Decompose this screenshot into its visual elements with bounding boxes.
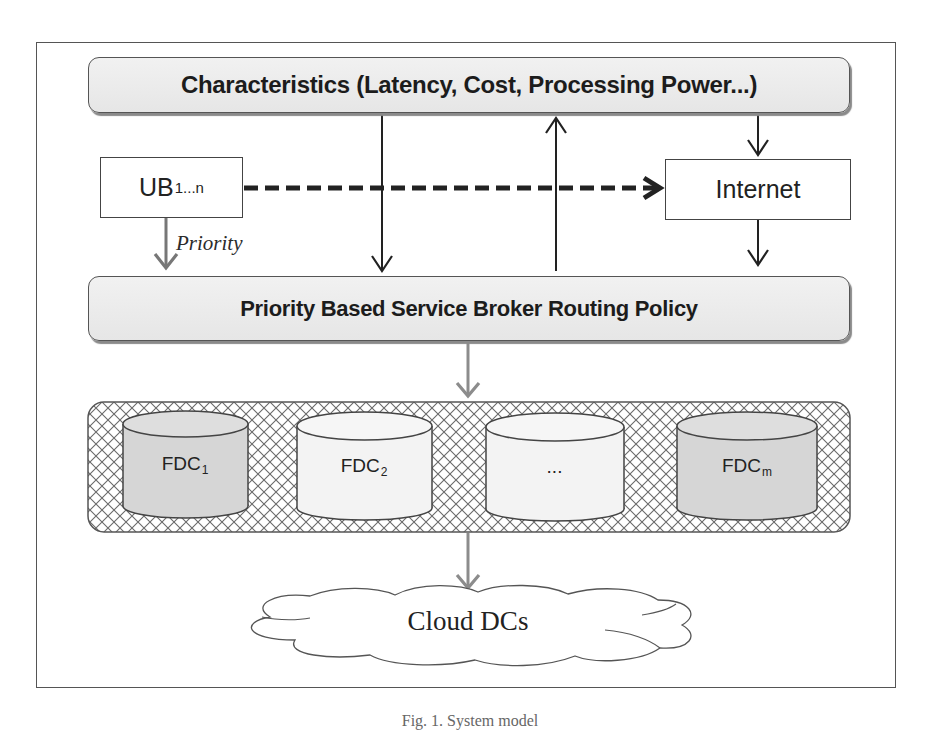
dashed-arrow-ub-to-internet xyxy=(244,178,660,198)
fdc-1-name: FDC xyxy=(162,453,201,474)
fdc-m-name: FDC xyxy=(722,455,761,476)
routing-policy-box: Priority Based Service Broker Routing Po… xyxy=(88,276,850,341)
arrow-policy-to-characteristics xyxy=(546,118,566,271)
fdc-1-label: FDC1 xyxy=(125,453,245,477)
figure-caption: Fig. 1. System model xyxy=(330,712,610,730)
fdc-ellipsis-label: ... xyxy=(495,456,615,480)
fdc-2-name: FDC xyxy=(341,455,380,476)
internet-label: Internet xyxy=(716,175,801,204)
internet-box: Internet xyxy=(665,159,851,220)
fdc-2-subscript: 2 xyxy=(381,465,388,479)
arrow-internet-to-policy xyxy=(748,220,768,265)
fdc-2-label: FDC2 xyxy=(304,455,424,479)
fdc-m-subscript: m xyxy=(762,465,772,479)
priority-edge-label: Priority xyxy=(176,231,243,256)
arrow-fdc-group-to-cloud xyxy=(457,533,479,588)
cloud-datacenters-label: Cloud DCs xyxy=(368,606,568,637)
arrow-characteristics-to-internet xyxy=(748,113,768,155)
fdc-ellipsis-name: ... xyxy=(547,456,563,477)
fdc-1-subscript: 1 xyxy=(202,463,209,477)
user-base-subscript: 1...n xyxy=(175,179,204,196)
arrow-characteristics-to-policy xyxy=(372,113,392,271)
arrow-policy-to-fdc-group xyxy=(457,342,479,396)
characteristics-label: Characteristics (Latency, Cost, Processi… xyxy=(181,71,757,99)
user-base-box: UB1...n xyxy=(100,157,243,218)
fdc-m-label: FDCm xyxy=(687,455,807,479)
user-base-label: UB xyxy=(139,173,174,202)
routing-policy-label: Priority Based Service Broker Routing Po… xyxy=(240,296,698,322)
characteristics-box: Characteristics (Latency, Cost, Processi… xyxy=(88,57,850,113)
arrow-ub-to-policy-priority xyxy=(155,218,177,268)
